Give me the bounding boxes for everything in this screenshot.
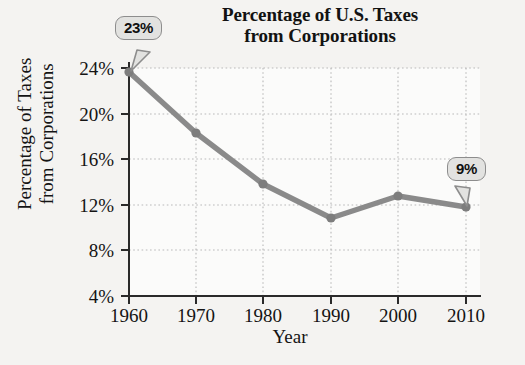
callout-label-1960: 23%	[115, 16, 162, 40]
chart-title-line-1: Percentage of U.S. Taxes	[150, 4, 490, 25]
x-tick-label-2010: 2010	[426, 305, 506, 327]
y-axis-title-line-2: from Corporations	[36, 29, 58, 239]
y-axis-ticks	[121, 68, 129, 296]
data-point-1990	[326, 213, 335, 222]
x-axis-title: Year	[180, 326, 400, 348]
chart-title-line-2: from Corporations	[150, 25, 490, 46]
y-axis-title-line-1: Percentage of Taxes	[14, 29, 36, 239]
y-tick-label-8: 8%	[44, 240, 114, 262]
data-point-2000	[393, 191, 402, 200]
chart-title: Percentage of U.S. Taxes from Corporatio…	[150, 4, 490, 47]
plot-area-background	[129, 68, 480, 296]
data-point-1970	[191, 128, 200, 137]
y-axis-title: Percentage of Taxes from Corporations	[14, 29, 58, 239]
chart-container: Percentage of U.S. Taxes from Corporatio…	[0, 0, 525, 365]
data-point-1980	[258, 179, 267, 188]
x-axis-ticks	[129, 296, 466, 304]
callout-label-2010: 9%	[447, 157, 486, 181]
